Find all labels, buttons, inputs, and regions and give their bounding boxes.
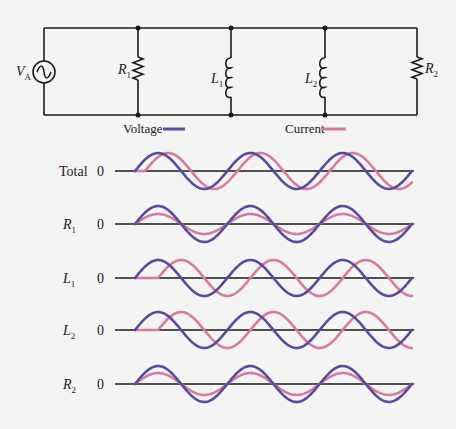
inductor-l2: L2 xyxy=(304,28,325,115)
zero-label: 0 xyxy=(97,164,104,179)
waveform-row-r2: R20 xyxy=(62,366,414,402)
row-label: L2 xyxy=(62,323,75,341)
parallel-rl-circuit-figure: VAR1L1L2R2 Voltage Current Total0R10L10L… xyxy=(0,0,456,429)
inductor-coil-icon xyxy=(226,58,231,97)
waveform-row-l2: L20 xyxy=(62,312,414,348)
component-label-l1: L1 xyxy=(210,71,223,89)
component-label-r1: R1 xyxy=(117,62,131,80)
waveform-row-total: Total0 xyxy=(59,153,414,189)
zero-label: 0 xyxy=(97,271,104,286)
row-label: R2 xyxy=(62,377,76,395)
row-label: L1 xyxy=(62,271,75,289)
row-label: Total xyxy=(59,164,88,179)
circuit-schematic: VAR1L1L2R2 xyxy=(16,26,438,118)
zero-label: 0 xyxy=(97,377,104,392)
junction-dot xyxy=(136,113,141,118)
junction-dot xyxy=(136,26,141,31)
inductor-l1: L1 xyxy=(210,28,231,115)
resistor-zigzag-icon xyxy=(133,57,143,80)
resistor-zigzag-icon xyxy=(412,57,422,79)
junction-dot xyxy=(323,113,328,118)
zero-label: 0 xyxy=(97,323,104,338)
waveform-row-r1: R10 xyxy=(62,206,414,242)
source-label-va: VA xyxy=(16,64,32,82)
component-label-r2: R2 xyxy=(424,61,438,79)
zero-label: 0 xyxy=(97,217,104,232)
junction-dot xyxy=(229,26,234,31)
legend-current-label: Current xyxy=(285,121,325,136)
waveform-plots: Total0R10L10L20R20 xyxy=(59,153,414,402)
junction-dot xyxy=(323,26,328,31)
row-label: R1 xyxy=(62,217,76,235)
legend: Voltage Current xyxy=(123,121,346,136)
legend-voltage-label: Voltage xyxy=(123,121,163,136)
ac-source-icon xyxy=(33,61,55,83)
waveform-row-l1: L10 xyxy=(62,260,414,296)
resistor-r2: R2 xyxy=(412,28,438,115)
resistor-r1: R1 xyxy=(117,28,143,115)
component-label-l2: L2 xyxy=(304,71,317,89)
inductor-coil-icon xyxy=(320,58,325,97)
junction-dot xyxy=(229,113,234,118)
